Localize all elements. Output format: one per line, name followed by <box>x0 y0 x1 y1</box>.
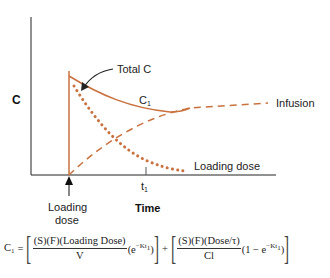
loading-dose-marker-label-2: dose <box>55 214 79 226</box>
x-axis-label: Time <box>135 202 160 214</box>
eq-term2-denominator: Cl <box>204 249 214 262</box>
loading-dose-marker-label-1: Loading <box>48 201 87 213</box>
eq-term1-numerator: (S)(F)(Loading Dose) <box>33 235 127 249</box>
eq-term1-denominator: V <box>76 249 84 262</box>
eq-plus: + <box>162 243 168 254</box>
eq-lhs: C1 <box>4 242 15 255</box>
eq-term2-exp: (1 − e−Kt1) <box>242 242 285 255</box>
c1-label: C1 <box>139 94 151 107</box>
bracket-right-1: ] <box>154 231 159 265</box>
eq-term2-exp-sup: −Kt <box>266 242 277 250</box>
total-c-curve <box>69 76 190 112</box>
bracket-left-2: [ <box>171 231 176 265</box>
eq-term1-exp: (e−Kt1) <box>128 242 154 255</box>
y-axis-label: C <box>12 93 21 107</box>
eq-term2-fraction: (S)(F)(Dose/τ) Cl <box>177 235 240 262</box>
infusion-label: Infusion <box>276 97 315 109</box>
eq-equals: = <box>18 243 24 254</box>
eq-term1-exp-sup: −Kt <box>136 242 147 250</box>
loading-dose-curve-label: Loading dose <box>194 160 260 172</box>
eq-lhs-symbol: C <box>4 242 11 253</box>
total-c-arrow <box>84 69 113 87</box>
loading-dose-curve <box>74 86 185 171</box>
concentration-equation: C1 = [ (S)(F)(Loading Dose) V (e−Kt1) ] … <box>4 228 330 268</box>
bracket-left-1: [ <box>27 231 32 265</box>
eq-lhs-subscript: 1 <box>11 247 15 255</box>
bracket-right-2: ] <box>284 231 289 265</box>
eq-term1-exp-prefix: (e <box>128 244 136 255</box>
up-arrow-icon <box>65 176 73 185</box>
total-c-label: Total C <box>117 63 151 75</box>
eq-term2-numerator: (S)(F)(Dose/τ) <box>177 235 240 249</box>
eq-term2-exp-prefix: (1 − e <box>242 244 267 255</box>
arrowhead-icon <box>81 82 89 91</box>
eq-term1-fraction: (S)(F)(Loading Dose) V <box>33 235 127 262</box>
t1-label: t1 <box>141 180 148 193</box>
